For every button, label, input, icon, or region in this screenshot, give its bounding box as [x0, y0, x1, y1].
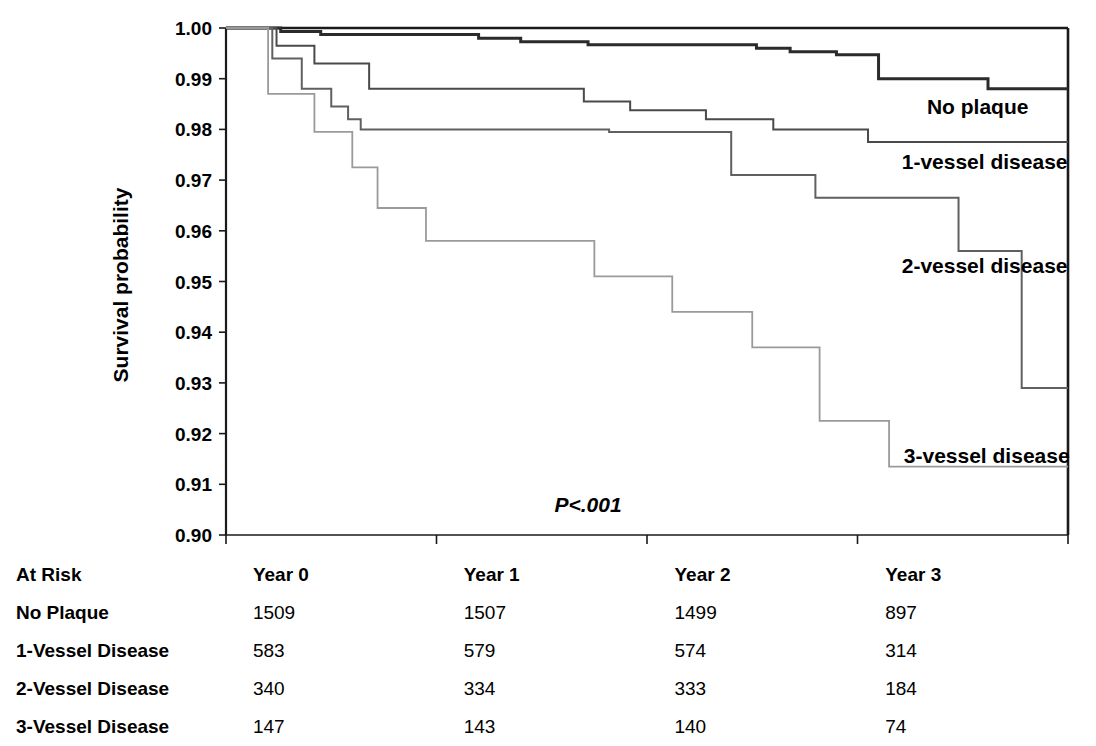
at-risk-value: 143 — [464, 708, 675, 746]
survival-plot: 1.000.990.980.970.960.950.940.930.920.91… — [0, 0, 1096, 560]
at-risk-header-row: At RiskYear 0Year 1Year 2Year 3 — [0, 556, 1096, 594]
y-tick-label: 0.97 — [175, 170, 212, 191]
at-risk-value: 897 — [885, 594, 1096, 632]
at-risk-value: 1509 — [253, 594, 464, 632]
km-curve-no-plaque — [226, 28, 1068, 89]
at-risk-column-header: Year 0 — [253, 556, 464, 594]
y-axis-title: Survival probability — [109, 187, 132, 382]
at-risk-value: 340 — [253, 670, 464, 708]
y-tick-label: 0.92 — [175, 424, 212, 445]
at-risk-column-header: Year 1 — [464, 556, 675, 594]
series-label-no-plaque: No plaque — [927, 95, 1029, 118]
at-risk-value: 140 — [674, 708, 885, 746]
kaplan-meier-figure: 1.000.990.980.970.960.950.940.930.920.91… — [0, 0, 1096, 746]
at-risk-value: 583 — [253, 632, 464, 670]
at-risk-row-label: 1-Vessel Disease — [0, 632, 253, 670]
y-axis-ticks: 1.000.990.980.970.960.950.940.930.920.91… — [175, 18, 226, 546]
at-risk-value: 184 — [885, 670, 1096, 708]
at-risk-value: 1507 — [464, 594, 675, 632]
series-label-2-vessel-disease: 2-vessel disease — [902, 254, 1068, 277]
at-risk-value: 333 — [674, 670, 885, 708]
y-tick-label: 0.91 — [175, 474, 212, 495]
at-risk-row: 1-Vessel Disease583579574314 — [0, 632, 1096, 670]
at-risk-row: 2-Vessel Disease340334333184 — [0, 670, 1096, 708]
at-risk-value: 334 — [464, 670, 675, 708]
at-risk-value: 1499 — [674, 594, 885, 632]
at-risk-row-label: 3-Vessel Disease — [0, 708, 253, 746]
y-tick-label: 0.93 — [175, 373, 212, 394]
series-labels: No plaque1-vessel disease2-vessel diseas… — [902, 95, 1070, 468]
y-tick-label: 0.94 — [175, 322, 212, 343]
at-risk-value: 579 — [464, 632, 675, 670]
y-tick-label: 0.90 — [175, 525, 212, 546]
at-risk-value: 574 — [674, 632, 885, 670]
at-risk-column-header: Year 2 — [674, 556, 885, 594]
at-risk-row: 3-Vessel Disease14714314074 — [0, 708, 1096, 746]
at-risk-value: 74 — [885, 708, 1096, 746]
y-tick-label: 0.96 — [175, 221, 212, 242]
series-label-1-vessel-disease: 1-vessel disease — [902, 150, 1068, 173]
at-risk-corner-label: At Risk — [0, 556, 253, 594]
at-risk-row-label: 2-Vessel Disease — [0, 670, 253, 708]
y-tick-label: 0.99 — [175, 69, 212, 90]
at-risk-value: 314 — [885, 632, 1096, 670]
y-tick-label: 0.98 — [175, 119, 212, 140]
x-axis-ticks — [226, 535, 1068, 544]
at-risk-row-label: No Plaque — [0, 594, 253, 632]
p-value-annotation: P<.001 — [554, 493, 621, 516]
y-tick-label: 1.00 — [175, 18, 212, 39]
series-label-3-vessel-disease: 3-vessel disease — [904, 444, 1070, 467]
at-risk-value: 147 — [253, 708, 464, 746]
at-risk-row: No Plaque150915071499897 — [0, 594, 1096, 632]
y-tick-label: 0.95 — [175, 272, 212, 293]
at-risk-column-header: Year 3 — [885, 556, 1096, 594]
km-curve-2-vessel-disease — [226, 28, 1068, 388]
at-risk-table: At RiskYear 0Year 1Year 2Year 3No Plaque… — [0, 556, 1096, 746]
